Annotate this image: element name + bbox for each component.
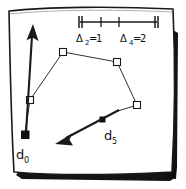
scale-label-left-symbol: Δ [76,33,83,44]
vertex-open-square [134,102,141,109]
scale-label-left-value: 1 [96,33,102,44]
label-d0-subscript: 0 [24,156,29,165]
figure-container: Δ 2 = 1 Δ 4 = 2 d [0,0,186,189]
scale-label-right-symbol: Δ [120,33,127,44]
sketch-canvas: Δ 2 = 1 Δ 4 = 2 d [0,0,186,189]
marker-d0-square [21,131,30,140]
marker-d5-square [100,117,106,123]
vertex-open-square [114,59,121,66]
vertex-open-square [60,49,67,56]
scale-label-right-value: 2 [140,33,146,44]
label-d5-subscript: 5 [112,137,117,146]
